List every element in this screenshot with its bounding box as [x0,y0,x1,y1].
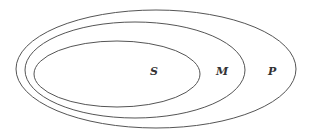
set-s-ellipse [34,41,200,107]
venn-diagram: S M P [0,0,310,136]
set-s-label: S [150,65,158,78]
set-m-label: M [215,65,229,78]
set-m-ellipse [25,22,245,118]
set-p-label: P [267,65,277,78]
